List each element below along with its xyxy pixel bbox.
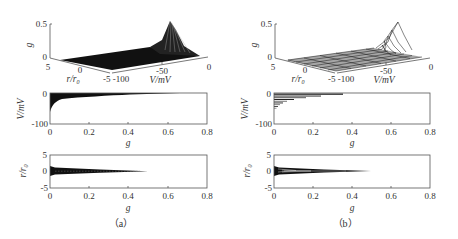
panel-a-r-vs-g-plot: 5 0 -5 r/r0 0 0.2 0.4 0.6 0.8 g （a） — [18, 150, 213, 229]
x-tick-0: 0 — [272, 191, 277, 201]
x-tick-0: 0 — [207, 62, 212, 72]
y-tick-neg100: -100 — [256, 119, 273, 129]
x-tick-0.2: 0.2 — [307, 127, 318, 137]
x-tick-0.6: 0.6 — [162, 127, 174, 137]
panel-b-v-vs-g-plot: 0 -100 V/mV 0 0.2 0.4 0.6 0.8 g — [240, 89, 436, 148]
panel-b-3d-plot: 0.5 0 g 5 0 r/r0 -5 -100 -50 0 V/mV — [249, 19, 434, 85]
x-tick-0.4: 0.4 — [122, 191, 134, 201]
x-axis-label: V/mV — [149, 75, 171, 85]
x-axis-label: g — [350, 203, 355, 213]
panel-a-v-vs-g-plot: 0 -100 V/mV 0 0.2 0.4 0.6 0.8 g — [16, 89, 213, 148]
x-tick-0.6: 0.6 — [385, 191, 397, 201]
y-axis-label: r/r0 — [242, 164, 253, 177]
y-tick-neg100: -100 — [32, 119, 49, 129]
x-tick-0: 0 — [48, 127, 53, 137]
x-tick-0.2: 0.2 — [83, 127, 94, 137]
x-axis-label: g — [350, 138, 355, 148]
y-tick-0: 0 — [78, 65, 83, 75]
y-axis-label: V/mV — [16, 97, 26, 119]
x-tick-0: 0 — [272, 127, 277, 137]
x-tick-0.6: 0.6 — [162, 191, 174, 201]
caption-a: （a） — [109, 218, 133, 229]
y-tick-5: 5 — [271, 62, 276, 72]
y-tick-5: 5 — [267, 150, 272, 160]
y-tick-0: 0 — [267, 89, 272, 99]
y-axis-label: V/mV — [240, 97, 250, 119]
x-tick-0: 0 — [48, 191, 53, 201]
y-tick-0: 0 — [43, 89, 48, 99]
z-tick-0: 0 — [43, 52, 48, 62]
y-tick-5: 5 — [43, 150, 48, 160]
figure: 0.5 0 g 5 0 r/r0 -5 -100 -50 0 V/mV 0 -1… — [0, 0, 458, 239]
x-axis-label: g — [126, 138, 131, 148]
x-tick-0.4: 0.4 — [346, 191, 358, 201]
x-tick-0.4: 0.4 — [122, 127, 134, 137]
x-axis-label: g — [126, 203, 131, 213]
x-tick-0.2: 0.2 — [83, 191, 94, 201]
x-tick-0.6: 0.6 — [385, 127, 397, 137]
y-tick-0: 0 — [303, 65, 308, 75]
x-tick-neg100: -5 -100 — [328, 74, 355, 84]
panel-a: 0.5 0 g 5 0 r/r0 -5 -100 -50 0 V/mV 0 -1… — [16, 19, 213, 229]
z-axis-label: g — [24, 42, 34, 47]
x-tick-0: 0 — [429, 62, 434, 72]
z-tick-0.5: 0.5 — [261, 19, 273, 29]
x-tick-0.8: 0.8 — [424, 191, 436, 201]
panel-a-3d-plot: 0.5 0 g 5 0 r/r0 -5 -100 -50 0 V/mV — [24, 19, 212, 85]
z-tick-0: 0 — [268, 52, 273, 62]
y-tick-5: 5 — [46, 62, 51, 72]
caption-b: （b） — [333, 218, 358, 229]
z-axis-label: g — [249, 42, 259, 47]
y-axis-label: r/r0 — [66, 74, 79, 85]
x-tick-neg100: -5 -100 — [103, 74, 130, 84]
x-tick-0.4: 0.4 — [346, 127, 358, 137]
y-axis-label: r/r0 — [18, 164, 29, 177]
x-axis-label: V/mV — [373, 75, 395, 85]
y-tick-0: 0 — [43, 166, 48, 176]
y-tick-0: 0 — [267, 166, 272, 176]
y-axis-label: r/r0 — [291, 74, 304, 85]
x-tick-0.2: 0.2 — [307, 191, 318, 201]
panel-b: 0.5 0 g 5 0 r/r0 -5 -100 -50 0 V/mV — [240, 19, 436, 229]
x-tick-0.8: 0.8 — [424, 127, 436, 137]
x-tick-0.8: 0.8 — [201, 191, 213, 201]
z-tick-0.5: 0.5 — [36, 19, 48, 29]
panel-b-r-vs-g-plot: 5 0 -5 r/r0 0 0.2 0.4 0.6 0.8 g （b） — [242, 150, 436, 229]
x-tick-0.8: 0.8 — [201, 127, 213, 137]
